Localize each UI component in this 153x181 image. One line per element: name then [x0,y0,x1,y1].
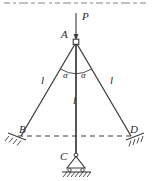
support-B-label: B [19,123,26,135]
support-D-group: D [126,123,144,147]
angle-right-alpha-label: α [81,70,86,80]
truss-diagram-svg: P A α α l l l [0,0,153,181]
apex-node-A-marker [73,39,79,44]
support-C-roller-right [81,168,84,171]
member-A-C-length-label: l [73,94,76,106]
member-A-B-length-label: l [41,74,44,86]
angle-left-alpha-label: α [63,70,68,80]
support-C-group: C [60,150,91,177]
support-C-label: C [60,150,68,162]
apex-label-A: A [60,28,68,40]
support-B-group: B [5,123,26,146]
support-C-roller-left [68,168,71,171]
load-P-group: P [74,10,89,41]
member-A-B [21,44,75,136]
member-A-D-length-label: l [110,74,113,86]
length-labels-group: l l l [41,74,113,106]
support-C-hatching [63,172,91,177]
support-D-label: D [129,123,138,135]
figure-root: P A α α l l l [0,0,153,181]
support-C-triangle [67,157,85,169]
load-P-label: P [81,10,89,22]
member-A-D [77,44,131,136]
